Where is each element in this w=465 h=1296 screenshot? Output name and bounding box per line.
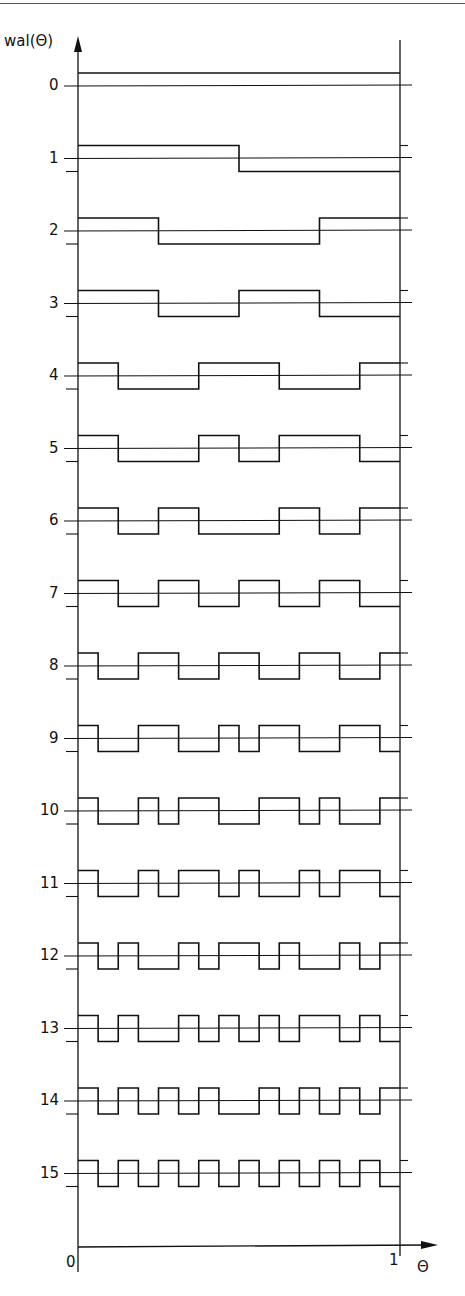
row-label-13: 13 (40, 1019, 59, 1037)
row-label-7: 7 (49, 584, 59, 602)
row-label-1: 1 (49, 149, 59, 167)
row-label-14: 14 (40, 1091, 59, 1109)
row-label-5: 5 (49, 439, 59, 457)
x-end-label: 1 (389, 1251, 399, 1269)
y-axis-label: wal(Θ) (4, 32, 53, 50)
baseline-wal-8 (64, 665, 412, 666)
row-label-10: 10 (40, 801, 59, 819)
row-label-6: 6 (49, 511, 59, 529)
x-axis (78, 1245, 425, 1247)
row-label-9: 9 (49, 729, 59, 747)
baseline-wal-10 (64, 810, 412, 811)
walsh-function-plot (0, 0, 465, 1296)
x-axis-arrow-icon (421, 1241, 438, 1249)
row-label-15: 15 (40, 1164, 59, 1182)
baseline-wal-9 (64, 738, 412, 739)
row-label-8: 8 (49, 656, 59, 674)
row-label-4: 4 (49, 366, 59, 384)
baseline-wal-0 (64, 85, 412, 86)
row-label-12: 12 (40, 946, 59, 964)
baseline-wal-1 (64, 158, 412, 159)
x-axis-label: Θ (417, 1258, 429, 1276)
axes (74, 36, 438, 1272)
row-label-3: 3 (49, 294, 59, 312)
walsh-rows (64, 73, 412, 1187)
row-label-0: 0 (49, 76, 59, 94)
row-label-2: 2 (49, 221, 59, 239)
baseline-wal-11 (64, 883, 412, 884)
x-origin-label: 0 (66, 1253, 76, 1271)
baseline-wal-3 (64, 303, 412, 304)
row-label-11: 11 (40, 874, 59, 892)
baseline-wal-2 (64, 230, 412, 231)
y-axis-arrow-icon (74, 36, 82, 52)
